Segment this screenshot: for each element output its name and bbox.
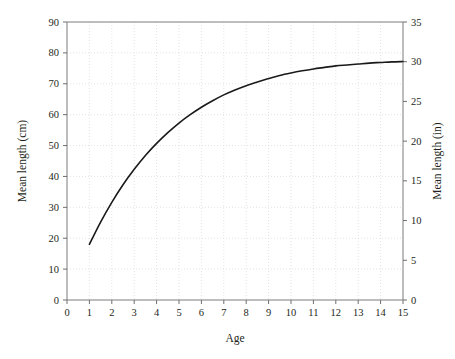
- x-tick-label: 4: [154, 307, 160, 318]
- y-right-tick-label: 0: [411, 295, 416, 306]
- x-tick-label: 10: [286, 307, 297, 318]
- y-axis-left-title: Mean length (cm): [16, 120, 29, 203]
- x-tick-label: 6: [199, 307, 204, 318]
- y-axis-right-title: Mean length (in): [431, 122, 444, 199]
- y-right-tick-label: 5: [411, 255, 416, 266]
- x-tick-label: 13: [353, 307, 364, 318]
- x-axis-title: Age: [225, 332, 244, 345]
- x-tick-label: 15: [398, 307, 409, 318]
- y-right-tick-label: 35: [411, 17, 422, 28]
- x-tick-label: 1: [87, 307, 92, 318]
- x-tick-label: 11: [308, 307, 318, 318]
- x-tick-label: 3: [132, 307, 137, 318]
- y-left-tick-label: 90: [49, 17, 60, 28]
- y-left-tick-label: 70: [49, 78, 60, 89]
- y-left-tick-label: 80: [49, 47, 60, 58]
- y-right-tick-label: 10: [411, 215, 422, 226]
- x-tick-label: 14: [375, 307, 386, 318]
- y-left-tick-label: 20: [49, 233, 60, 244]
- y-right-tick-label: 25: [411, 96, 422, 107]
- x-tick-label: 0: [64, 307, 69, 318]
- x-tick-label: 5: [176, 307, 181, 318]
- x-tick-label: 8: [244, 307, 249, 318]
- y-right-tick-label: 20: [411, 136, 422, 147]
- chart-background: [0, 0, 455, 359]
- x-tick-label: 9: [266, 307, 271, 318]
- y-left-tick-label: 10: [49, 264, 60, 275]
- y-left-tick-label: 40: [49, 171, 60, 182]
- x-tick-label: 12: [331, 307, 342, 318]
- y-left-tick-label: 0: [54, 295, 59, 306]
- chart-figure: 0123456789101112131415 01020304050607080…: [0, 0, 455, 359]
- y-left-tick-label: 50: [49, 140, 60, 151]
- y-left-tick-label: 30: [49, 202, 60, 213]
- y-right-tick-label: 30: [411, 56, 422, 67]
- x-tick-label: 2: [109, 307, 114, 318]
- y-left-tick-label: 60: [49, 109, 60, 120]
- y-right-tick-label: 15: [411, 175, 422, 186]
- growth-curve-chart: 0123456789101112131415 01020304050607080…: [0, 0, 455, 359]
- x-tick-label: 7: [221, 307, 226, 318]
